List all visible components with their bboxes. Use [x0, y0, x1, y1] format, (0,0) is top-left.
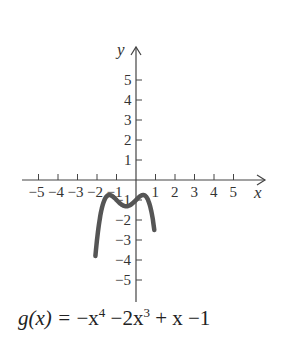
y-tick-label: 3 [124, 112, 132, 128]
y-tick-label: 1 [124, 152, 132, 168]
x-tick-label: 2 [171, 184, 179, 200]
formula-term-1: −x [76, 306, 98, 330]
y-axis-label: y [115, 40, 125, 59]
x-tick-label: 5 [230, 184, 238, 200]
x-tick-label: −5 [29, 184, 45, 200]
y-tick-label: 4 [124, 92, 132, 108]
x-axis-label: x [253, 183, 262, 202]
y-tick-label: 5 [124, 72, 132, 88]
x-tick-label: −3 [68, 184, 84, 200]
y-tick-label: −5 [115, 272, 131, 288]
y-tick-label: −3 [115, 232, 131, 248]
x-tick-label: 1 [152, 184, 160, 200]
y-tick-label: −4 [115, 252, 131, 268]
formula-term-2: −2x [105, 306, 143, 330]
y-tick-label: −2 [115, 212, 131, 228]
function-formula: g(x) = −x4 −2x3 + x −1 [18, 306, 210, 331]
x-tick-label: 4 [210, 184, 218, 200]
formula-term-4: −1 [183, 306, 211, 330]
graph-canvas: −5−4−3−2−11234554321−1−2−3−4−5 y x [0, 0, 291, 341]
formula-term-3: + x [150, 306, 183, 330]
x-tick-label: 3 [191, 184, 199, 200]
x-tick-label: −4 [48, 184, 64, 200]
y-tick-label: 2 [124, 132, 132, 148]
x-tick-label: −2 [87, 184, 103, 200]
formula-lhs: g(x) = [18, 306, 76, 330]
